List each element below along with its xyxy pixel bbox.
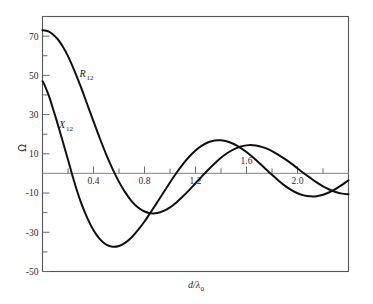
y-tick-label: 30 xyxy=(29,110,39,120)
mutual-impedance-chart: 70503010-10-30-50 0.40.81.21.62.0 R12X12… xyxy=(0,0,373,304)
x-tick-label: 0.8 xyxy=(139,176,151,186)
x-tick-label: 0.4 xyxy=(88,176,100,186)
chart-figure: 70503010-10-30-50 0.40.81.21.62.0 R12X12… xyxy=(0,0,373,304)
x-tick-label: 2.0 xyxy=(292,176,304,186)
y-tick-label: -30 xyxy=(26,228,39,238)
y-tick-label: -10 xyxy=(26,188,39,198)
y-tick-label: 50 xyxy=(29,71,39,81)
y-tick-label: -50 xyxy=(26,267,39,277)
chart-background xyxy=(0,0,373,304)
y-tick-label: 70 xyxy=(29,32,39,42)
x-tick-label: 1.6 xyxy=(241,156,253,166)
y-axis-title: Ω xyxy=(17,144,28,152)
y-tick-label: 10 xyxy=(29,149,39,159)
